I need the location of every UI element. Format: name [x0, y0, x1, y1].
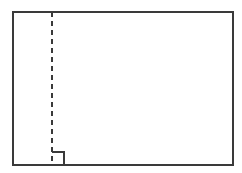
figure-background	[0, 0, 242, 173]
geometry-figure-svg	[0, 0, 242, 173]
figure-canvas	[0, 0, 242, 173]
